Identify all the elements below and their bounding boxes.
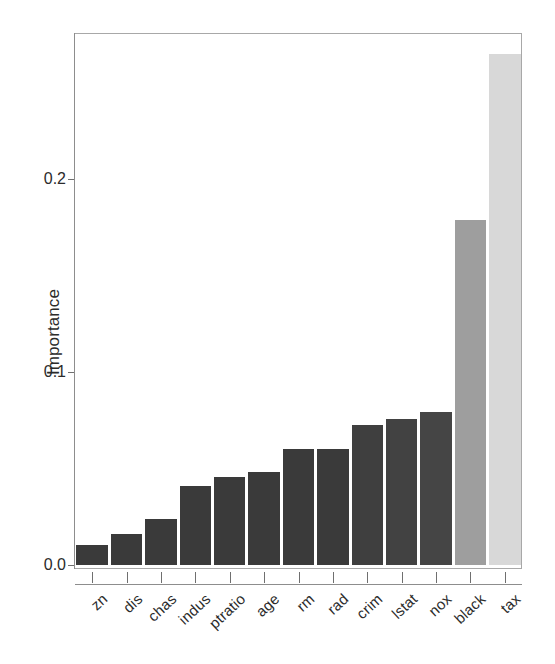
bars-area — [75, 33, 522, 569]
bar-age — [248, 472, 279, 565]
bar-crim — [352, 425, 383, 566]
y-tick-mark — [68, 372, 74, 373]
x-tick-mark — [470, 572, 471, 583]
y-tick-label-wrap: 0.2 — [12, 179, 66, 180]
x-tick-mark — [127, 572, 128, 583]
x-tick-mark — [195, 572, 196, 583]
x-tick-label-lstat: lstat — [388, 590, 420, 622]
bar-zn — [76, 545, 107, 565]
y-tick-label: 0.0 — [18, 556, 66, 574]
bar-rad — [317, 449, 348, 565]
x-tick-mark — [436, 572, 437, 583]
y-tick-label-wrap: 0.0 — [12, 565, 66, 566]
x-axis-line — [75, 584, 522, 585]
y-tick-label-wrap: 0.1 — [12, 372, 66, 373]
y-tick-label: 0.1 — [18, 363, 66, 381]
x-tick-label-black: black — [451, 590, 489, 627]
bar-chas — [145, 519, 176, 566]
y-tick-label: 0.2 — [18, 170, 66, 188]
x-tick-mark — [505, 572, 506, 583]
y-tick-mark — [68, 565, 74, 566]
x-tick-label-chas: chas — [144, 590, 179, 625]
x-tick-label-crim: crim — [353, 590, 386, 622]
bar-tax — [489, 54, 520, 565]
x-tick-mark — [402, 572, 403, 583]
bar-nox — [420, 412, 451, 565]
x-tick-mark — [299, 572, 300, 583]
x-tick-label-rad: rad — [324, 590, 352, 618]
bar-ptratio — [214, 477, 245, 565]
x-tick-mark — [161, 572, 162, 583]
bar-dis — [111, 534, 142, 565]
importance-bar-chart: Importance 0.00.10.2 zndischasindusptrat… — [0, 0, 555, 664]
x-tick-label-tax: tax — [497, 590, 524, 616]
x-tick-label-rm: rm — [292, 590, 317, 615]
bar-rm — [283, 449, 314, 565]
bar-black — [455, 220, 486, 565]
x-tick-mark — [230, 572, 231, 583]
x-tick-mark — [367, 572, 368, 583]
x-tick-label-age: age — [252, 590, 282, 620]
x-tick-mark — [264, 572, 265, 583]
x-tick-label-ptratio: ptratio — [205, 590, 248, 632]
y-tick-mark — [68, 179, 74, 180]
bar-indus — [180, 486, 211, 565]
x-tick-mark — [333, 572, 334, 583]
bar-lstat — [386, 419, 417, 565]
x-tick-label-dis: dis — [119, 590, 145, 616]
x-tick-mark — [92, 572, 93, 583]
x-tick-label-zn: zn — [87, 590, 110, 614]
